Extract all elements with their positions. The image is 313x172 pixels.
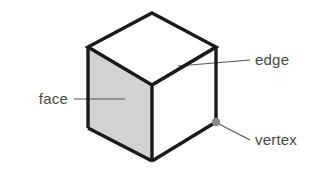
label-vertex: vertex <box>255 131 297 148</box>
vertex-marker-dot <box>212 118 220 126</box>
label-face: face <box>39 90 68 107</box>
label-edge: edge <box>255 51 289 68</box>
vertex-leader-line <box>217 123 250 140</box>
diagram-canvas: face edge vertex <box>0 0 313 172</box>
cube-parts-diagram: face edge vertex <box>0 0 313 172</box>
